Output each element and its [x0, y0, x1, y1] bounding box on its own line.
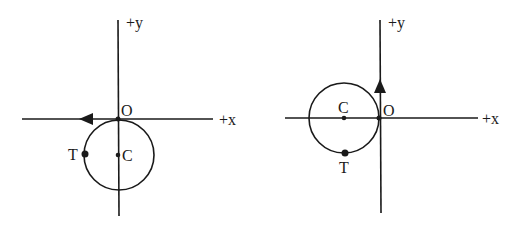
left-x-label: +x: [219, 111, 236, 128]
left-point-t-label: T: [68, 146, 78, 163]
right-x-label: +x: [482, 110, 499, 127]
left-point-t-dot: [82, 151, 89, 158]
left-origin-label: O: [121, 102, 133, 119]
right-center-label: C: [338, 99, 349, 116]
left-diagram: +y +x O C T: [22, 14, 236, 216]
right-arrow-icon: [374, 79, 386, 93]
left-y-label: +y: [126, 14, 143, 32]
right-origin-label: O: [383, 102, 395, 119]
left-center-label: C: [122, 147, 133, 164]
left-origin-dot: [116, 117, 121, 122]
right-center-dot: [342, 116, 347, 121]
right-diagram: +y +x O C T: [285, 14, 499, 213]
right-point-t-dot: [342, 150, 349, 157]
right-y-label: +y: [388, 14, 405, 32]
left-arrow-icon: [79, 113, 93, 125]
diagram-canvas: +y +x O C T +y +x O C T: [0, 0, 516, 234]
left-center-dot: [116, 153, 121, 158]
right-point-t-label: T: [339, 159, 349, 176]
right-origin-dot: [377, 116, 382, 121]
